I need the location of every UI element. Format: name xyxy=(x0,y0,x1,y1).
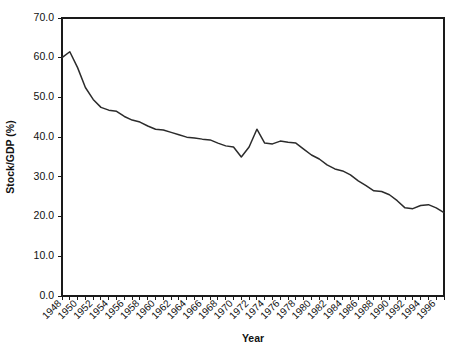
y-tick-label: 20.0 xyxy=(34,209,55,221)
stock-gdp-line-chart: 70.060.050.040.030.020.010.00.0 19481950… xyxy=(0,0,461,357)
x-tick-label: 1996 xyxy=(414,297,438,321)
y-axis-ticks: 70.060.050.040.030.020.010.00.0 xyxy=(34,11,62,301)
plot-frame-border xyxy=(62,18,444,296)
chart-container: 70.060.050.040.030.020.010.00.0 19481950… xyxy=(0,0,461,357)
y-tick-label: 30.0 xyxy=(34,170,55,182)
y-tick-label: 70.0 xyxy=(34,11,55,23)
y-tick-label: 50.0 xyxy=(34,90,55,102)
y-tick-label: 10.0 xyxy=(34,249,55,261)
y-tick-label: 0.0 xyxy=(39,289,54,301)
y-tick-label: 40.0 xyxy=(34,130,55,142)
y-axis-title: Stock/GDP (%) xyxy=(4,120,16,193)
x-axis-tick-labels: 1948195019521954195619581960196219641966… xyxy=(40,297,438,321)
series-line-stock-gdp xyxy=(62,52,444,213)
x-axis-title: Year xyxy=(242,332,264,344)
y-tick-label: 60.0 xyxy=(34,50,55,62)
